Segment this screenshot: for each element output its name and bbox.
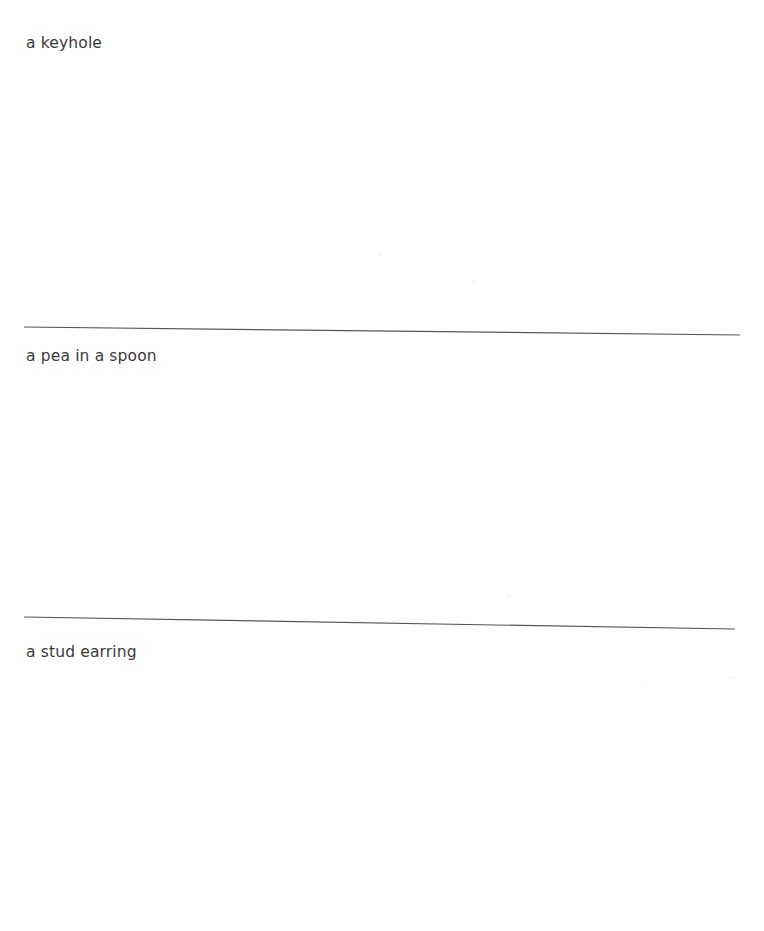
scan-speck	[506, 597, 508, 599]
caption-label-keyhole: a keyhole	[26, 36, 102, 52]
scan-speck	[472, 280, 475, 283]
divider-rule-1	[24, 327, 740, 335]
scan-speck	[729, 676, 732, 679]
scan-speck	[378, 252, 381, 255]
scan-speck	[645, 682, 647, 684]
scanned-page: a keyhole a pea in a spoon a stud earrin…	[0, 0, 764, 931]
scan-speck	[508, 594, 511, 597]
divider-rule-2	[24, 617, 735, 629]
caption-label-pea-in-a-spoon: a pea in a spoon	[26, 349, 157, 365]
caption-label-stud-earring: a stud earring	[26, 645, 137, 661]
divider-rules-layer	[0, 0, 764, 931]
